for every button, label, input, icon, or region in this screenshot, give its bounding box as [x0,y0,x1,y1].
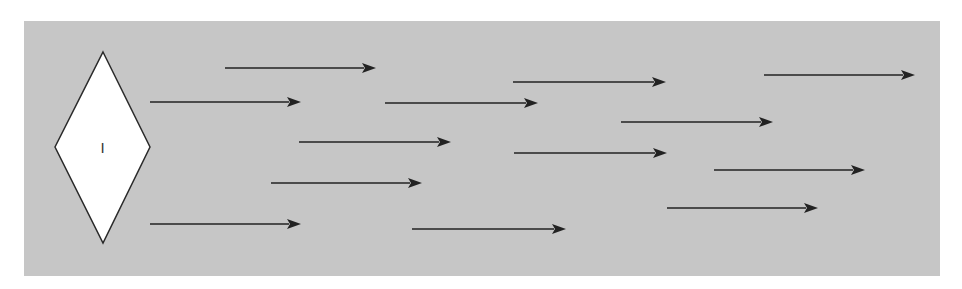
diagram-canvas: I [0,0,962,289]
diamond-label: I [100,139,104,156]
gray-field-background [24,21,940,276]
